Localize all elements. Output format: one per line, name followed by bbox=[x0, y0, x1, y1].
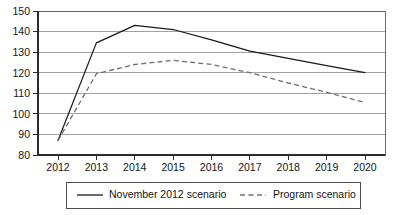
x-tick-label: 2012 bbox=[46, 161, 70, 173]
x-tick-label: 2013 bbox=[85, 161, 109, 173]
y-axis-ticks: 8090100110120130140150 bbox=[12, 5, 38, 161]
x-tick-label: 2016 bbox=[200, 161, 224, 173]
y-tick-label: 120 bbox=[12, 67, 30, 79]
legend: November 2012 scenario Program scenario bbox=[66, 182, 360, 208]
x-axis-ticks: 201220132014201520162017201820192020 bbox=[46, 155, 377, 173]
x-tick-label: 2019 bbox=[315, 161, 339, 173]
y-tick-label: 100 bbox=[12, 108, 30, 120]
y-tick-label: 110 bbox=[13, 87, 30, 99]
x-tick-label: 2020 bbox=[353, 161, 377, 173]
chart-container: 8090100110120130140150 20122013201420152… bbox=[0, 0, 402, 215]
x-tick-label: 2014 bbox=[123, 161, 147, 173]
legend-label-program-scenario: Program scenario bbox=[273, 188, 356, 200]
y-tick-label: 80 bbox=[18, 149, 30, 161]
legend-label-november-2012-scenario: November 2012 scenario bbox=[109, 188, 226, 200]
line-chart: 8090100110120130140150 20122013201420152… bbox=[0, 0, 402, 215]
x-tick-label: 2018 bbox=[277, 161, 301, 173]
x-tick-label: 2017 bbox=[238, 161, 262, 173]
y-tick-label: 150 bbox=[12, 5, 30, 17]
y-tick-label: 140 bbox=[12, 25, 30, 37]
plot-area-background bbox=[38, 11, 385, 155]
x-tick-label: 2015 bbox=[161, 161, 185, 173]
y-tick-label: 130 bbox=[12, 46, 30, 58]
y-tick-label: 90 bbox=[18, 128, 30, 140]
